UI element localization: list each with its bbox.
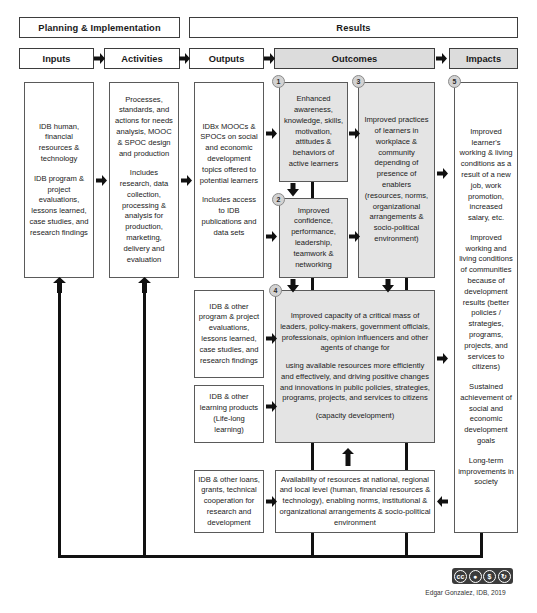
column-header-inputs: Inputs: [19, 48, 94, 69]
column-header-activities: Activities: [104, 48, 180, 69]
outcomes-box-5-text: Availability of resources at national, r…: [279, 475, 431, 529]
arrow-inputs-to-activities-icon: [95, 172, 108, 189]
connector-outcome3-outcome4: [405, 278, 408, 290]
outputs-box-1: IDBx MOOCs & SPOCs on social and economi…: [194, 82, 264, 278]
column-header-impacts-label: Impacts: [466, 54, 501, 64]
outcomes-box-4-p1: Improved capacity of a critical mass of …: [279, 311, 431, 354]
impacts-box-p2: Improved working and living conditions o…: [458, 233, 514, 373]
outputs-box-3-text: IDB & other learning products (Life-long…: [198, 392, 260, 435]
feedback-riser-outcomes-right: [405, 533, 408, 557]
banner-results: Results: [189, 17, 518, 38]
diagram-canvas: Planning & Implementation Results Inputs…: [0, 0, 537, 613]
outcomes-box-5-resources: Availability of resources at national, r…: [275, 470, 435, 533]
arrow-resources-up-to-outcome4-icon: [340, 447, 355, 467]
outcomes-box-2: Improved confidence, performance, leader…: [279, 198, 348, 278]
arrow-outcome1-down-to-outcome2-icon: [285, 182, 300, 198]
arrow-outcome2-to-outcome3-icon: [348, 228, 361, 245]
arrow-outcome3-to-impacts-icon: [436, 165, 449, 182]
activities-box: Processes, standards, and actions for ne…: [109, 82, 179, 278]
connector-outcome4-resources-right: [405, 443, 408, 470]
cc-icon: cc: [454, 570, 467, 583]
outcomes-badge-3: 3: [352, 75, 365, 88]
feedback-arrowhead-inputs-icon: [52, 276, 67, 294]
inputs-box: IDB human, financial resources & technol…: [24, 82, 94, 278]
impacts-badge-5: 5: [448, 75, 461, 88]
impacts-box-p3: Sustained achievement of social and econ…: [458, 382, 514, 447]
outputs-box-3: IDB & other learning products (Life-long…: [194, 385, 264, 443]
outcomes-box-1-text: Enhanced awareness, knowledge, skills, m…: [283, 94, 344, 169]
column-header-inputs-label: Inputs: [43, 54, 71, 64]
feedback-line-horizontal: [58, 555, 483, 558]
outcomes-box-4-p2: using available resources more efficient…: [279, 361, 431, 404]
column-header-outcomes-label: Outcomes: [332, 54, 377, 64]
arrow-outcome1-to-outcome3-icon: [348, 125, 361, 142]
inputs-box-p1: IDB human, financial resources & technol…: [28, 122, 90, 165]
outcomes-box-4-p3: (capacity development): [316, 411, 395, 422]
feedback-line-to-inputs: [58, 290, 61, 558]
outcomes-badge-1-label: 1: [277, 78, 281, 85]
outputs-box-1-p2: Includes access to IDB publications and …: [198, 195, 260, 238]
outcomes-badge-4: 4: [269, 284, 282, 297]
outputs-box-2: IDB & other program & project evaluation…: [194, 290, 264, 378]
arrow-outputs-to-outcome1-icon: [265, 125, 278, 142]
outputs-box-4-text: IDB & other loans, grants, technical coo…: [198, 475, 260, 529]
arrow-outcome3-down-to-outcome4-icon: [380, 278, 395, 294]
outcomes-badge-2: 2: [272, 193, 285, 206]
impacts-badge-5-label: 5: [453, 78, 457, 85]
outcomes-badge-2-label: 2: [277, 196, 281, 203]
column-header-outputs: Outputs: [189, 48, 264, 69]
arrow-outcome2-down-to-outcome4-icon: [285, 278, 300, 294]
cc-license-badge[interactable]: cc ● $ ↻: [452, 568, 513, 584]
footer-credit: Edgar Gonzalez, IDB, 2019: [398, 589, 533, 596]
arrow-outputs-to-outcomes-header-icon: [263, 50, 276, 67]
column-header-impacts: Impacts: [449, 48, 518, 69]
connector-outcome4-resources-left: [311, 443, 314, 470]
arrow-impacts-to-resources-icon: [436, 493, 449, 510]
outcomes-box-3-text: Improved practices of learners in workpl…: [362, 115, 431, 244]
outcomes-badge-4-label: 4: [274, 287, 278, 294]
outputs-box-2-text: IDB & other program & project evaluation…: [198, 302, 260, 367]
outcomes-badge-1: 1: [272, 75, 285, 88]
inputs-box-p2: IDB program & project evaluations, lesso…: [28, 174, 90, 239]
arrow-outcome4-to-impacts-icon: [436, 350, 449, 367]
arrow-outcomes-to-impacts-header-icon: [435, 50, 448, 67]
feedback-line-to-activities: [143, 290, 146, 558]
banner-planning-implementation: Planning & Implementation: [19, 17, 180, 38]
connector-outcome2-outcome4: [311, 278, 314, 290]
outputs-box-1-p1: IDBx MOOCs & SPOCs on social and economi…: [198, 122, 260, 187]
banner-results-label: Results: [336, 23, 370, 33]
column-header-activities-label: Activities: [121, 54, 162, 64]
impacts-box-p4: Long-term improvements in society: [458, 456, 514, 488]
outcomes-box-1: Enhanced awareness, knowledge, skills, m…: [279, 82, 348, 182]
arrow-loans-to-resources-icon: [265, 493, 278, 510]
arrow-activities-to-outputs-icon: [180, 172, 193, 189]
connector-outcome1-outcome2: [311, 182, 314, 198]
column-header-outputs-label: Outputs: [209, 54, 245, 64]
impacts-box-p1: Improved learner's working & living cond…: [458, 127, 514, 224]
feedback-arrowhead-activities-icon: [137, 276, 152, 294]
feedback-riser-outcomes-left: [311, 533, 314, 557]
column-header-outcomes: Outcomes: [274, 48, 435, 69]
feedback-riser-impacts: [480, 533, 483, 557]
activities-box-p1: Processes, standards, and actions for ne…: [113, 95, 175, 160]
arrow-learning-products-to-outcome4-icon: [265, 398, 278, 415]
cc-by-icon: ●: [469, 570, 482, 583]
outcomes-box-2-text: Improved confidence, performance, leader…: [283, 206, 344, 271]
cc-sa-icon: ↻: [498, 570, 511, 583]
outcomes-badge-3-label: 3: [357, 78, 361, 85]
arrow-outputs-to-outcome4-icon: [265, 330, 278, 347]
outcomes-box-4: Improved capacity of a critical mass of …: [275, 290, 435, 443]
arrow-activities-to-outputs-header-icon: [178, 50, 191, 67]
cc-nc-icon: $: [483, 570, 496, 583]
outputs-box-4: IDB & other loans, grants, technical coo…: [194, 470, 264, 533]
impacts-box: Improved learner's working & living cond…: [454, 82, 518, 533]
outcomes-box-3: Improved practices of learners in workpl…: [358, 82, 435, 278]
activities-box-p2: Includes research, data collection, proc…: [113, 168, 175, 265]
arrow-inputs-to-activities-header-icon: [93, 50, 106, 67]
banner-planning-label: Planning & Implementation: [38, 23, 160, 33]
arrow-outputs-to-outcome2-icon: [265, 228, 278, 245]
